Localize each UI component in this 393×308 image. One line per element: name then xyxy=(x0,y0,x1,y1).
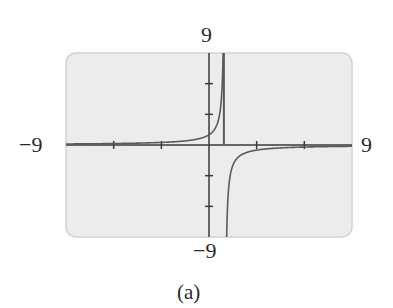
y-min-label: −9 xyxy=(193,240,216,262)
x-min-label: −9 xyxy=(19,134,42,156)
x-max-label: 9 xyxy=(361,134,372,156)
y-max-label: 9 xyxy=(201,24,212,46)
figure-caption: (a) xyxy=(177,280,200,305)
